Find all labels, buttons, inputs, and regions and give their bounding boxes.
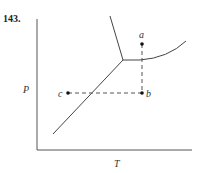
point-a	[140, 42, 144, 46]
y-axis-label: P	[22, 84, 29, 95]
axes	[37, 19, 192, 150]
fusion-curve	[110, 16, 123, 60]
point-a-label: a	[139, 29, 144, 40]
point-b-label: b	[146, 88, 151, 99]
vaporization-curve	[123, 41, 186, 60]
point-c-label: c	[58, 88, 63, 99]
phase-diagram: a b c P T	[0, 0, 199, 173]
x-axis-label: T	[114, 158, 121, 169]
point-b	[140, 91, 144, 95]
sublimation-curve	[53, 60, 123, 134]
point-c	[66, 91, 70, 95]
